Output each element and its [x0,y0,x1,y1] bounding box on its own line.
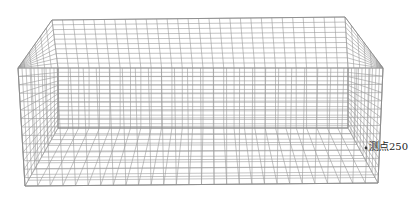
mesh-grid [18,17,383,186]
measurement-point-label: 测点250 [369,142,408,152]
wireframe-mesh-diagram [0,0,415,199]
measurement-point-marker [365,147,368,150]
